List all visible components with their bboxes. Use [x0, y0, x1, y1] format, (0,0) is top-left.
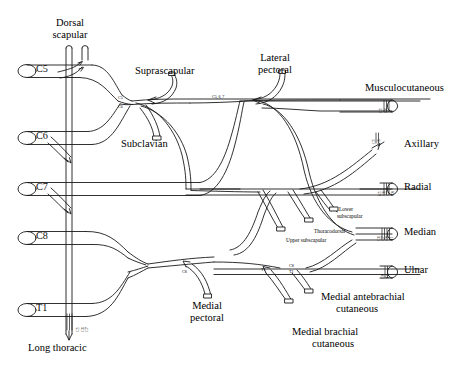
- axillary-root-1: C6: [377, 131, 381, 144]
- root-cap-c6: [18, 132, 36, 145]
- radial-root-stack: C5 C6 C7 C8: [378, 182, 395, 196]
- upper-subscapular-label: Upper subscapular: [286, 238, 326, 244]
- medial-pectoral-annotation: C8: [182, 270, 187, 274]
- ulnar-label: Ulnar: [404, 265, 428, 276]
- medial-pectoral-label-line2: pectoral: [172, 313, 242, 324]
- medial-antebrachial-t1-annotation: T1: [289, 270, 293, 274]
- median-label: Median: [404, 227, 436, 238]
- medial-brachial-label-line1: Medial brachial: [292, 327, 358, 338]
- root-cap-c8: [18, 232, 36, 245]
- root-label-t1: T1: [36, 302, 47, 313]
- root-cap-c7: [18, 183, 36, 196]
- radial-label: Radial: [404, 182, 431, 193]
- lower-subscapular-label-line2: subscapular: [337, 214, 362, 220]
- axillary-label: Axillary: [404, 139, 439, 150]
- root-label-c7: C7: [36, 181, 48, 192]
- medial-antebrachial-label-line2: cutaneous: [336, 304, 378, 315]
- musculocutaneous-label: Musculocutaneous: [365, 83, 444, 94]
- c6-branch-arrow: [48, 137, 71, 163]
- c7-branch-arrow: [48, 188, 71, 214]
- root-line-c7: [27, 183, 200, 196]
- subclavian-label: Subclavian: [121, 139, 168, 150]
- root-cap-c5: [18, 65, 36, 78]
- upper-trunk-c6-annotation: C6: [118, 105, 123, 109]
- lower-subscapular-label-line1: Lower: [339, 207, 353, 213]
- brachial-plexus-figure: C5 C6 C7 C8 T1 Dorsal scapular Suprascap…: [0, 0, 466, 373]
- upper-subscapular-nerve: [258, 190, 285, 231]
- dorsal-scapular-label-line1: Dorsal: [22, 18, 118, 29]
- root-cap-t1: [18, 304, 36, 317]
- median-root-stack: C6 C7 C8 T1: [377, 227, 394, 241]
- suprascapular-label: Suprascapular: [135, 66, 194, 77]
- lateral-pectoral-label-line2: pectoral: [240, 65, 310, 76]
- medial-antebrachial-c8-annotation: C8: [289, 264, 294, 268]
- medial-root-of-median: [306, 240, 356, 272]
- radial-root-3: C8: [391, 182, 395, 196]
- axillary-branch: [300, 144, 380, 195]
- root-label-c8: C8: [36, 230, 48, 241]
- root-label-c6: C6: [36, 130, 48, 141]
- medial-brachial-t1-annotation: T1: [261, 268, 265, 272]
- axillary-root-stack: C5 C6: [372, 131, 381, 144]
- medial-pectoral-label-line1: Medial: [172, 301, 242, 312]
- long-thoracic-root-2: C7: [85, 312, 89, 332]
- root-label-c5: C5: [36, 63, 48, 74]
- lateral-cord-annotation: C5, 6, 7: [212, 95, 224, 99]
- median-root-3: T1: [390, 227, 394, 241]
- medial-brachial-label-line2: cutaneous: [292, 339, 374, 350]
- lateral-pectoral-label-line1: Lateral: [240, 53, 310, 64]
- subclavian-nerve: [140, 105, 161, 140]
- ulnar-root-1: T1: [386, 265, 390, 279]
- long-thoracic-root-stack: C5 C6 C7: [76, 312, 90, 332]
- upper-trunk-c5-annotation: C5: [118, 96, 123, 100]
- middle-trunk-divisions: [200, 101, 244, 196]
- long-thoracic-nerve: [66, 46, 72, 340]
- medial-antebrachial-cutaneous-nerve: [292, 270, 313, 293]
- medial-antebrachial-label-line1: Medial antebrachial: [321, 292, 405, 303]
- dorsal-scapular-label-line2: scapular: [22, 30, 118, 41]
- upper-trunk: [80, 65, 132, 145]
- musculocutaneous-feed: [262, 108, 392, 111]
- ulnar-root-stack: C8 T1: [381, 265, 390, 279]
- long-thoracic-label: Long thoracic: [28, 343, 87, 354]
- dorsal-scapular-nerve: [58, 46, 88, 78]
- musculocutaneous-root-1: C6: [384, 99, 388, 113]
- medial-pectoral-nerve: [183, 261, 212, 298]
- musculocutaneous-root-stack: C5 C6: [379, 99, 388, 113]
- thoracodorsal-label: Thoracodorsal: [314, 229, 345, 235]
